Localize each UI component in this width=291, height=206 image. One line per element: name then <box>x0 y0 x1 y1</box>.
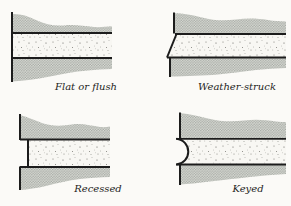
panel-weather-struck: Weather-struck <box>167 13 286 92</box>
label-recessed: Recessed <box>73 183 122 194</box>
top-brick <box>12 14 112 33</box>
mortar-joint <box>12 33 112 58</box>
bottom-brick <box>12 58 112 82</box>
top-brick <box>180 113 286 138</box>
label-weather-struck: Weather-struck <box>198 81 276 92</box>
top-brick <box>174 13 286 33</box>
panel-flat-or-flush: Flat or flush <box>12 12 117 92</box>
mortar-joint <box>28 140 110 168</box>
bottom-brick <box>170 58 286 77</box>
label-flat-or-flush: Flat or flush <box>54 81 117 92</box>
panel-recessed: Recessed <box>20 114 122 194</box>
joints-diagram-canvas: Flat or flush Weather-struck Recessed <box>0 0 291 206</box>
top-brick <box>20 115 110 140</box>
mortar-joint <box>167 34 286 58</box>
panel-keyed: Keyed <box>176 113 286 194</box>
label-keyed: Keyed <box>231 183 263 194</box>
mortar-joint <box>177 139 287 165</box>
masonry-joint-types-figure: Flat or flush Weather-struck Recessed <box>0 0 291 206</box>
